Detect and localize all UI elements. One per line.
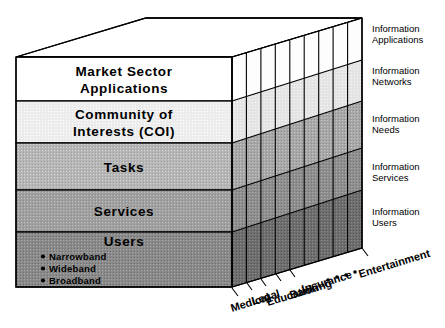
caption-information-networks: Information Networks xyxy=(372,65,420,87)
tick-leader-medical xyxy=(232,288,238,296)
caption-information-applications: Information Applications xyxy=(372,23,423,45)
bullet-dot-broadband xyxy=(41,278,45,282)
front-layer-3-line1: Tasks xyxy=(104,160,144,175)
caption-3-line1: Information xyxy=(372,113,420,124)
caption-4-line1: Information xyxy=(372,161,420,172)
depth-label-insurance: Insurance xyxy=(300,268,353,295)
front-layer-tasks: Tasks xyxy=(16,143,232,190)
front-layer-2-line2: Interests (COI) xyxy=(73,124,175,139)
bullet-dot-narrowband xyxy=(41,254,45,258)
caption-5-line1: Information xyxy=(372,206,420,217)
front-layer-community-of-interests: Community of Interests (COI) xyxy=(16,101,232,143)
front-layer-5-line1: Users xyxy=(104,234,145,249)
bullet-dot-wideband xyxy=(41,266,45,270)
caption-5-line2: Users xyxy=(372,217,397,228)
front-layer-1-line2: Applications xyxy=(80,81,168,96)
caption-information-services: Information Services xyxy=(372,161,420,183)
front-layer-1-line1: Market Sector xyxy=(75,64,172,79)
front-layer-2-line1: Community of xyxy=(75,107,173,122)
caption-information-users: Information Users xyxy=(372,206,420,228)
tick-leader-insurance xyxy=(290,270,295,277)
depth-label-entertainment: Entertainment xyxy=(357,247,432,280)
caption-1-line2: Applications xyxy=(372,34,423,45)
users-bullet-wideband: Wideband xyxy=(49,263,96,274)
ellipsis-dot-1 xyxy=(326,278,330,282)
caption-1-line1: Information xyxy=(372,23,420,34)
caption-3-line2: Needs xyxy=(372,124,400,135)
side-face xyxy=(232,18,362,287)
users-bullet-narrowband: Narrowband xyxy=(49,251,106,262)
tick-leader-legal xyxy=(247,283,252,290)
front-layer-users: Users Narrowband Wideband Broadband xyxy=(16,232,232,287)
caption-4-line2: Services xyxy=(372,172,409,183)
block-diagram: Market Sector Applications Community of … xyxy=(0,0,445,328)
ellipsis-dot-4 xyxy=(353,270,357,274)
tick-leader-education xyxy=(261,279,266,286)
front-layer-market-sector-applications: Market Sector Applications xyxy=(16,57,232,101)
ellipsis-dot-3 xyxy=(344,273,348,277)
users-bullet-broadband: Broadband xyxy=(49,275,101,286)
caption-2-line1: Information xyxy=(372,65,420,76)
isometric-block-svg: Market Sector Applications Community of … xyxy=(0,0,445,328)
right-side-captions: Information Applications Information Net… xyxy=(372,23,423,228)
front-layer-4-line1: Services xyxy=(94,204,154,219)
front-layer-services: Services xyxy=(16,190,232,232)
front-face: Market Sector Applications Community of … xyxy=(16,57,232,287)
caption-2-line2: Networks xyxy=(372,76,412,87)
tick-leader-banking xyxy=(276,274,281,281)
tick-leader-entertainment xyxy=(362,248,368,256)
caption-information-needs: Information Needs xyxy=(372,113,420,135)
ellipsis-dot-2 xyxy=(335,275,339,279)
